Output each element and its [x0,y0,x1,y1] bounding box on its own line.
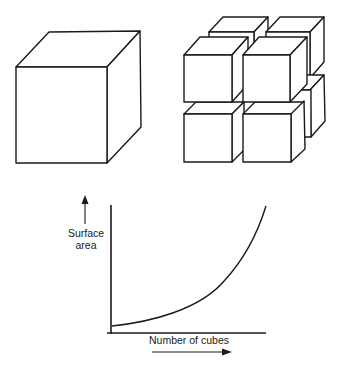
surface-area-curve [112,206,266,326]
cube-front-top-left [184,37,248,102]
cube-front-top-right [243,37,307,102]
cube-front-bottom-right [243,101,305,162]
x-axis-label: Number of cubes [149,334,229,346]
x-label-arrowhead-icon [222,349,232,356]
y-label-arrowhead-icon [82,195,89,204]
surface-area-graph [82,195,267,356]
y-axis-label-line1: Surface [68,227,104,239]
diagram-canvas: Surface area Number of cubes [0,0,340,367]
eight-cube-cluster [184,17,325,162]
y-axis-label-line2: area [75,239,96,251]
cube-front-bottom-left [184,102,244,162]
large-cube [16,31,141,163]
